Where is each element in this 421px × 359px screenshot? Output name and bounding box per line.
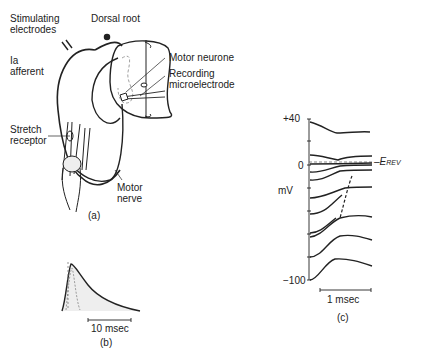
scale-label-c: 1 msec: [327, 294, 359, 305]
label-ia-2: afferent: [10, 66, 44, 77]
voltage-clamp-traces: [307, 119, 373, 292]
y-unit-label: mV: [278, 185, 293, 196]
label-recording-2: microelectrode: [169, 79, 235, 90]
label-recording-1: Recording: [169, 68, 215, 79]
label-stretch-receptor-1: Stretch: [10, 124, 42, 135]
reversal-label-e: –E: [374, 156, 386, 167]
reversal-potential-label: –EREV: [374, 156, 401, 168]
figure: Stimulating electrodes Dorsal root Ia af…: [0, 0, 421, 359]
label-motor-nerve-1: Motor: [117, 182, 143, 193]
label-stimulating-electrodes-2: electrodes: [10, 24, 56, 35]
tick-label-zero: 0: [298, 160, 304, 171]
tick-label-minus100: −100: [283, 275, 306, 286]
label-stimulating-electrodes-1: Stimulating: [10, 13, 59, 24]
tick-label-plus40: +40: [283, 113, 300, 124]
label-motor-nerve-2: nerve: [117, 193, 142, 204]
spinal-cord-diagram: [48, 35, 172, 213]
label-motor-neurone: Motor neurone: [169, 52, 234, 63]
label-stretch-receptor-2: receptor: [10, 135, 47, 146]
caption-a: (a): [88, 210, 100, 221]
reversal-label-sub: REV: [386, 159, 400, 166]
label-dorsal-root: Dorsal root: [91, 13, 140, 24]
caption-c: (c): [337, 312, 349, 323]
caption-b: (b): [100, 337, 112, 348]
label-ia-1: Ia: [10, 55, 18, 66]
epsp-trace-diagram: [62, 262, 140, 322]
scale-label-b: 10 msec: [91, 323, 129, 334]
